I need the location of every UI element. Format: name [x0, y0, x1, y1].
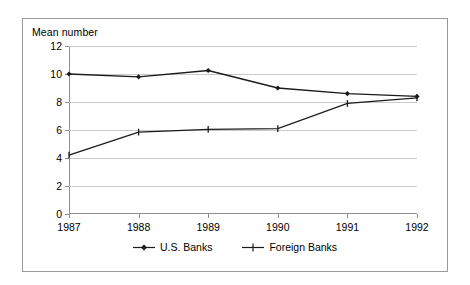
- legend-item-foreign-banks[interactable]: Foreign Banks: [242, 241, 337, 253]
- legend-label-us-banks: U.S. Banks: [160, 241, 213, 253]
- y-tick-label: 6: [56, 124, 62, 136]
- x-tick-mark: [139, 214, 140, 218]
- series-layer: [69, 46, 417, 214]
- y-tick-label: 4: [56, 152, 62, 164]
- plot-area: 024681012 198719881989199019911992: [69, 46, 417, 214]
- legend-item-us-banks[interactable]: U.S. Banks: [133, 241, 213, 253]
- y-tick-label: 12: [50, 40, 62, 52]
- legend-label-foreign-banks: Foreign Banks: [269, 241, 337, 253]
- data-point-marker: [136, 74, 141, 79]
- x-tick-mark: [278, 214, 279, 218]
- y-axis-title: Mean number: [32, 26, 98, 38]
- x-tick-label: 1988: [127, 221, 150, 233]
- x-tick-label: 1991: [336, 221, 359, 233]
- y-tick-label: 2: [56, 180, 62, 192]
- y-tick-label: 10: [50, 68, 62, 80]
- chart-figure: Mean number 024681012 198719881989199019…: [22, 18, 448, 272]
- chart-legend: U.S. Banks Foreign Banks: [23, 241, 447, 253]
- x-tick-label: 1989: [197, 221, 220, 233]
- series-line: [69, 71, 417, 97]
- series-line: [69, 98, 417, 155]
- y-tick-label: 8: [56, 96, 62, 108]
- data-point-marker: [206, 68, 211, 73]
- x-tick-label: 1987: [57, 221, 80, 233]
- x-tick-mark: [347, 214, 348, 218]
- y-tick-label: 0: [56, 208, 62, 220]
- legend-marker-plus-icon: [242, 242, 264, 253]
- x-tick-label: 1990: [266, 221, 289, 233]
- x-tick-mark: [417, 214, 418, 218]
- series-foreign-banks: [69, 94, 417, 158]
- data-point-marker: [275, 85, 280, 90]
- data-point-marker: [66, 71, 71, 76]
- data-point-marker: [345, 91, 350, 96]
- x-tick-mark: [69, 214, 70, 218]
- series-u-s-banks: [66, 68, 419, 99]
- legend-marker-diamond-icon: [133, 242, 155, 253]
- x-tick-label: 1992: [405, 221, 428, 233]
- x-tick-mark: [208, 214, 209, 218]
